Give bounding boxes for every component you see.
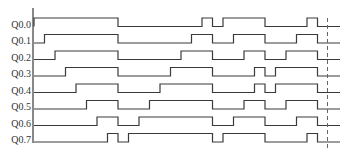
timing-diagram: Q0.0Q0.1Q0.2Q0.3Q0.4Q0.5Q0.6Q0.7 xyxy=(0,0,354,163)
signal-label: Q0.6 xyxy=(11,118,31,129)
waveform-q0-0 xyxy=(34,18,340,27)
waveform-q0-3 xyxy=(34,68,340,77)
waveform-q0-6 xyxy=(34,117,340,126)
signal-label: Q0.3 xyxy=(11,68,31,79)
signal-label: Q0.1 xyxy=(11,35,31,46)
signal-label: Q0.7 xyxy=(11,134,31,145)
waveform-q0-4 xyxy=(34,84,340,93)
signal-label: Q0.4 xyxy=(11,85,31,96)
waveform-q0-2 xyxy=(34,51,340,60)
signal-label: Q0.5 xyxy=(11,101,31,112)
signal-label: Q0.0 xyxy=(11,19,31,30)
signal-label: Q0.2 xyxy=(11,52,31,63)
waveform-q0-5 xyxy=(34,101,340,110)
waveform-q0-7 xyxy=(34,134,340,143)
waveform-q0-1 xyxy=(34,35,340,44)
